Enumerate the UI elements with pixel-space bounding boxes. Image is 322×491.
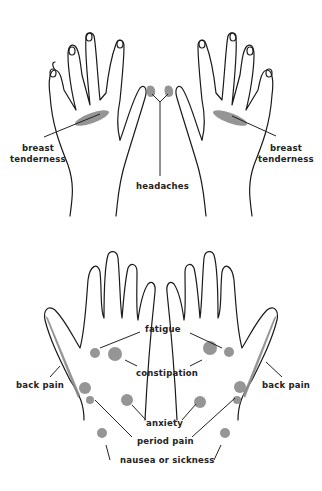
breast-tenderness-spot-right: [211, 107, 248, 129]
label-breast-tenderness-right: breast tenderness: [258, 143, 314, 165]
period-pain-spot-left-1: [79, 382, 91, 394]
label-line: tenderness: [10, 154, 66, 165]
label-constipation: constipation: [136, 368, 198, 379]
nausea-spot-left: [97, 428, 107, 438]
constipation-spot-right: [203, 341, 217, 355]
label-line: tenderness: [258, 154, 314, 165]
label-back-pain-left: back pain: [16, 380, 64, 391]
label-back-pain-right: back pain: [262, 380, 310, 391]
nausea-spot-right: [220, 428, 230, 438]
label-fatigue: fatigue: [145, 324, 181, 335]
label-nausea-or-sickness: nausea or sickness: [120, 455, 215, 466]
period-pain-spot-right-2: [233, 396, 241, 404]
constipation-spot-left: [108, 347, 122, 361]
label-headaches: headaches: [136, 181, 189, 192]
left-palm: [45, 252, 156, 438]
label-breast-tenderness-left: breast tenderness: [10, 143, 66, 165]
fatigue-spot-left-1: [90, 348, 100, 358]
label-period-pain: period pain: [137, 436, 194, 447]
label-line: breast: [258, 143, 314, 154]
period-pain-spot-left-2: [86, 396, 94, 404]
label-anxiety: anxiety: [146, 418, 183, 429]
breast-tenderness-spot-left: [73, 107, 110, 129]
label-line: breast: [10, 143, 66, 154]
anxiety-spot-left: [121, 394, 133, 406]
anxiety-spot-right: [194, 396, 206, 408]
fatigue-spot-right: [224, 347, 234, 357]
period-pain-spot-right-1: [234, 381, 246, 393]
